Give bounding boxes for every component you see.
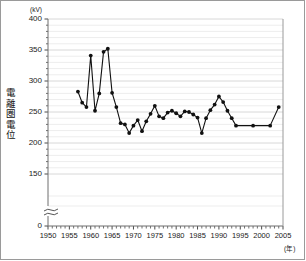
data-point-marker	[97, 92, 101, 96]
chart-container: (kV) (年) 電離圏電位 4003503002502001500 19501…	[0, 0, 306, 261]
data-point-marker	[89, 54, 93, 58]
data-point-marker	[149, 112, 153, 116]
y-tick-label: 300	[20, 76, 42, 85]
data-point-marker	[114, 105, 118, 109]
data-point-marker	[93, 109, 97, 113]
y-tick-label: 0	[20, 221, 42, 230]
y-axis-break-symbol	[44, 209, 58, 215]
y-tick-label: 150	[20, 169, 42, 178]
data-point-marker	[183, 109, 187, 113]
data-point-marker	[136, 118, 140, 122]
data-point-marker	[85, 105, 89, 109]
data-point-marker	[123, 123, 127, 127]
data-series-markers-group	[76, 47, 281, 135]
data-point-marker	[110, 91, 114, 95]
data-point-marker	[221, 100, 225, 104]
y-tick-label: 200	[20, 138, 42, 147]
data-point-marker	[226, 109, 230, 113]
data-point-marker	[127, 131, 131, 135]
data-point-marker	[132, 124, 136, 128]
data-point-marker	[80, 101, 84, 105]
data-point-marker	[161, 116, 165, 120]
data-point-marker	[170, 109, 174, 113]
data-point-marker	[174, 111, 178, 115]
data-point-marker	[187, 110, 191, 114]
data-point-marker	[140, 129, 144, 133]
data-point-marker	[119, 121, 123, 125]
y-major-ticks-group	[45, 19, 49, 226]
data-point-marker	[166, 111, 170, 115]
data-point-marker	[144, 119, 148, 123]
x-minor-ticks-group	[48, 226, 283, 230]
data-point-marker	[277, 105, 281, 109]
data-point-marker	[196, 116, 200, 120]
data-point-marker	[106, 47, 110, 51]
y-tick-label: 250	[20, 107, 42, 116]
data-point-marker	[217, 95, 221, 99]
gridlines-group	[48, 19, 283, 206]
data-point-marker	[213, 103, 217, 107]
data-point-marker	[230, 116, 234, 120]
data-point-marker	[157, 114, 161, 118]
data-point-marker	[208, 108, 212, 112]
data-point-marker	[234, 124, 238, 128]
data-point-marker	[102, 50, 106, 54]
y-tick-label: 400	[20, 14, 42, 23]
data-point-marker	[251, 124, 255, 128]
x-tick-label: 2005	[270, 231, 296, 240]
data-point-marker	[191, 113, 195, 117]
plot-svg	[0, 0, 306, 261]
data-point-marker	[179, 114, 183, 118]
data-series-line	[78, 49, 279, 133]
data-point-marker	[76, 90, 80, 94]
data-point-marker	[200, 131, 204, 135]
data-point-marker	[268, 124, 272, 128]
y-tick-label: 350	[20, 45, 42, 54]
data-point-marker	[204, 116, 208, 120]
data-point-marker	[153, 104, 157, 108]
